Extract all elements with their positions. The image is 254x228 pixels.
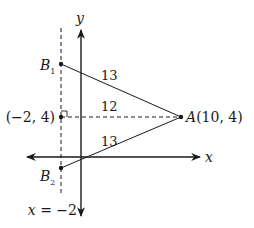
segment-ab2 — [61, 117, 181, 168]
length-ab1: 13 — [101, 68, 118, 83]
length-ab2: 13 — [101, 134, 118, 149]
point-a — [179, 115, 183, 119]
label-b1: B1 — [39, 57, 55, 76]
point-b1 — [59, 62, 63, 66]
label-point-m: (−2, 4) — [6, 109, 55, 125]
x-axis-label: x — [205, 149, 213, 165]
y-axis-label: y — [75, 10, 85, 26]
point-m — [59, 115, 63, 119]
label-b2: B2 — [39, 168, 55, 187]
label-point-a: A(10, 4) — [184, 109, 243, 125]
line-equation-label: x = −2 — [28, 202, 77, 218]
segment-ab1 — [61, 64, 181, 117]
length-am: 12 — [101, 99, 118, 114]
geometry-diagram: y x B1 B2 (−2, 4) A(10, 4) 13 12 13 x = … — [0, 0, 254, 228]
point-b2 — [59, 166, 63, 170]
